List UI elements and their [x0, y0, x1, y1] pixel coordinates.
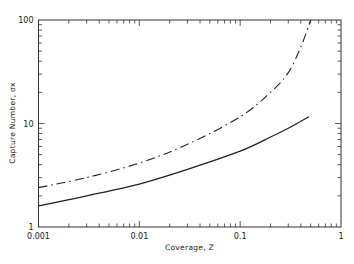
- x-tick-label: 1: [338, 232, 343, 241]
- x-tick-labels: 0.0010.010.11: [27, 232, 344, 241]
- x-tick-label: 0.01: [130, 232, 148, 241]
- dash-dot-curve: [39, 20, 311, 188]
- y-tick-label: 10: [23, 120, 33, 129]
- solid-curve: [39, 117, 309, 206]
- x-axis-title: Coverage, Z: [165, 243, 214, 252]
- data-series: [39, 20, 311, 206]
- y-axis-title: Capture Number, σx: [8, 82, 17, 164]
- x-tick-label: 0.1: [234, 232, 247, 241]
- y-tick-label: 100: [18, 16, 33, 25]
- chart: 0.0010.010.11 110100 Coverage, Z Capture…: [0, 0, 354, 264]
- y-tick-label: 1: [28, 223, 33, 232]
- x-tick-label: 0.001: [27, 232, 50, 241]
- y-tick-labels: 110100: [18, 16, 33, 232]
